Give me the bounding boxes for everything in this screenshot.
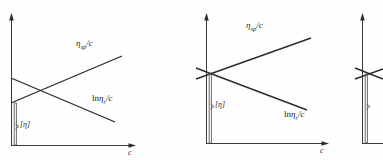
panel-2-eta-tail: /c bbox=[256, 20, 263, 30]
panel-2-ln-prefix: ln bbox=[284, 109, 291, 119]
figure-canvas: ηsp/c lnηr/c [η] c ηsp/c lnηr/c [η] c bbox=[0, 0, 383, 160]
panel-1-x-axis bbox=[11, 143, 136, 148]
panel-2-x-axis-label: c bbox=[320, 147, 324, 155]
panel-2-y-axis bbox=[204, 13, 209, 144]
panel-1-eta-tail: /c bbox=[86, 38, 93, 48]
panel-1-intrinsic-viscosity-bracket bbox=[14, 103, 19, 145]
panel-1-label-eta-sp-over-c: ηsp/c bbox=[76, 39, 93, 50]
panel-1-ln-eta-tail: /c bbox=[106, 93, 113, 103]
panel-3-y-axis bbox=[360, 13, 365, 144]
panel-1-label-ln-eta-r-over-c: lnηr/c bbox=[92, 94, 113, 105]
panel-2-label-intrinsic-viscosity: [η] bbox=[215, 101, 225, 109]
panel-1-label-intrinsic-viscosity: [η] bbox=[20, 121, 30, 129]
viscosity-plot-figure bbox=[0, 0, 383, 160]
panel-2-label-eta-sp-over-c: ηsp/c bbox=[246, 21, 263, 32]
panel-2-intrinsic-viscosity-bracket bbox=[209, 74, 214, 143]
panel-2-line-eta-sp bbox=[196, 38, 311, 79]
panel-2-x-axis bbox=[206, 141, 329, 146]
panel-3 bbox=[355, 13, 383, 144]
panel-1-ln-prefix: ln bbox=[92, 93, 99, 103]
panel-1-x-axis-label: c bbox=[128, 149, 132, 157]
panel-2-ln-eta-tail: /c bbox=[298, 109, 305, 119]
panel-2-line-ln-eta-r bbox=[196, 68, 307, 110]
panel-3-intrinsic-viscosity-bracket bbox=[365, 74, 370, 143]
panel-2 bbox=[196, 13, 329, 146]
panel-2-label-ln-eta-r-over-c: lnηr/c bbox=[284, 110, 305, 121]
